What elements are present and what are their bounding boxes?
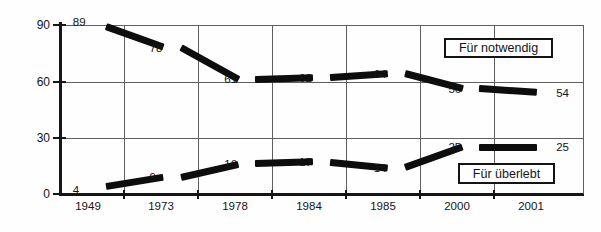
gridline-x-5 bbox=[420, 25, 421, 194]
y-tick-label-60: 60 bbox=[24, 76, 50, 88]
gridline-x-1 bbox=[124, 25, 125, 194]
x-tick-4 bbox=[345, 190, 347, 199]
series-segment bbox=[479, 85, 537, 96]
point-value-label: 14 bbox=[374, 162, 387, 174]
x-tick-label-2001: 2001 bbox=[501, 200, 561, 213]
y-tick-label-30: 30 bbox=[24, 132, 50, 144]
legend-label-fuer-ueberlebt: Für überlebt bbox=[467, 167, 546, 181]
plot-right-border bbox=[583, 25, 584, 194]
y-tick-label-90: 90 bbox=[24, 19, 50, 31]
legend-box-fuer-ueberlebt[interactable]: Für überlebt bbox=[458, 163, 555, 184]
x-tick-3 bbox=[271, 190, 273, 199]
point-value-label: 25 bbox=[556, 141, 569, 153]
gridline-x-3 bbox=[272, 25, 273, 194]
y-tick-60 bbox=[53, 81, 66, 83]
x-tick-2 bbox=[197, 190, 199, 199]
x-tick-1 bbox=[123, 190, 125, 199]
x-tick-label-1984: 1984 bbox=[279, 200, 339, 213]
x-tick-label-1978: 1978 bbox=[205, 200, 265, 213]
x-tick-label-2000: 2000 bbox=[427, 200, 487, 213]
y-tick-label-0: 0 bbox=[24, 188, 50, 200]
point-value-label: 25 bbox=[448, 141, 461, 153]
x-tick-5 bbox=[419, 190, 421, 199]
x-tick-label-1949: 1949 bbox=[58, 200, 118, 213]
legend-label-fuer-notwendig: Für notwendig bbox=[453, 41, 544, 55]
x-axis-line bbox=[59, 193, 584, 196]
x-tick-label-1985: 1985 bbox=[353, 200, 413, 213]
point-value-label: 64 bbox=[374, 68, 387, 80]
y-tick-30 bbox=[53, 137, 66, 139]
gridline-y-60 bbox=[60, 82, 583, 83]
gridline-y-90 bbox=[60, 25, 583, 26]
y-tick-0 bbox=[53, 193, 66, 195]
point-value-label: 78 bbox=[150, 42, 163, 54]
point-value-label: 61 bbox=[224, 73, 237, 85]
point-value-label: 9 bbox=[150, 171, 156, 183]
point-value-label: 17 bbox=[299, 156, 312, 168]
series-segment bbox=[479, 144, 537, 151]
y-tick-90 bbox=[53, 24, 66, 26]
point-value-label: 62 bbox=[299, 72, 312, 84]
gridline-x-4 bbox=[346, 25, 347, 194]
x-tick-6 bbox=[493, 190, 495, 199]
chart-container: 90 60 30 0 1949 1973 1978 1984 1985 2000… bbox=[0, 0, 601, 232]
point-value-label: 89 bbox=[73, 16, 86, 28]
point-value-label: 54 bbox=[556, 87, 569, 99]
y-axis-line bbox=[59, 22, 62, 196]
point-value-label: 56 bbox=[448, 83, 461, 95]
point-value-label: 4 bbox=[73, 184, 79, 196]
gridline-y-30 bbox=[60, 138, 583, 139]
point-value-label: 16 bbox=[224, 158, 237, 170]
legend-box-fuer-notwendig[interactable]: Für notwendig bbox=[444, 38, 553, 58]
x-tick-label-1973: 1973 bbox=[131, 200, 191, 213]
